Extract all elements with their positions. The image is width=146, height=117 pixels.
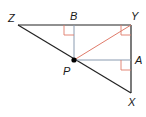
right-angle-mark-b	[64, 25, 74, 35]
label-z: Z	[7, 12, 16, 24]
segment-py	[74, 25, 131, 60]
right-angle-mark-a	[121, 60, 131, 70]
point-p	[71, 57, 76, 62]
label-x: X	[127, 96, 136, 108]
label-a: A	[134, 54, 142, 66]
label-b: B	[70, 10, 77, 22]
label-y: Y	[131, 10, 139, 22]
triangle-diagram: Z B Y P A X	[0, 0, 146, 117]
label-p: P	[63, 65, 71, 77]
